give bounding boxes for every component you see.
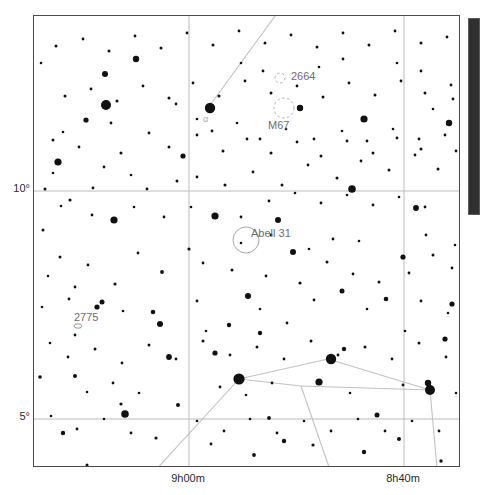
star-marker [384,297,389,302]
star-marker [41,306,44,309]
constellation-line-5 [328,359,430,390]
star-marker [315,378,322,385]
star-marker [244,80,247,83]
star-marker [103,418,106,421]
sky-map-frame[interactable] [33,15,460,467]
dso-label-ngc2664: 2664 [291,70,315,82]
star-marker [400,80,403,83]
star-marker [160,47,163,50]
star-marker [120,152,123,155]
star-marker [346,194,349,197]
scrollbar-thumb[interactable] [468,18,480,215]
star-marker [205,330,208,333]
star-marker [268,200,271,203]
star-marker [175,358,178,361]
axis-label-ra-8h40m: 8h40m [363,472,443,484]
star-marker [348,82,351,85]
star-marker [212,44,215,47]
star-marker [227,323,231,327]
star-marker [211,130,214,133]
star-marker [163,216,166,219]
star-marker [420,148,423,151]
star-marker [451,267,454,270]
constellation-line-3 [301,386,430,390]
star-marker [447,312,450,315]
star-marker [358,240,361,243]
star-marker [418,342,421,345]
star-marker [352,273,355,276]
star-marker [168,97,171,100]
star-marker [121,410,129,418]
star-marker [282,439,286,443]
star-marker [168,146,171,149]
star-marker [270,152,273,155]
star-marker [49,342,52,345]
star-marker [92,187,95,190]
star-marker [59,256,62,259]
star-marker [196,300,199,303]
star-marker [60,205,63,208]
star-marker [414,154,417,157]
star-marker [52,139,55,142]
star-marker [211,212,218,219]
star-marker [223,430,226,433]
star-marker [52,172,55,175]
star-marker [294,192,297,195]
star-marker [134,35,137,38]
axis-label-declination-5: 5° [6,410,30,422]
star-marker [205,103,215,113]
star-marker [368,44,371,47]
star-marker [400,254,405,259]
star-marker [258,331,262,335]
star-marker [94,348,97,351]
star-marker [245,293,251,299]
sky-map-canvas[interactable] [34,16,460,467]
star-marker [404,330,407,333]
star-marker [392,128,395,131]
star-marker [130,432,133,435]
star-marker [82,38,85,41]
star-marker [313,138,316,141]
star-marker [83,117,88,122]
star-marker [408,272,411,275]
star-marker [229,354,232,357]
star-marker [394,30,397,33]
star-marker [318,66,321,69]
star-marker [186,32,189,35]
star-marker [271,382,274,385]
star-marker [236,122,239,125]
star-marker [68,198,71,201]
star-marker [320,155,323,158]
dso-symbol-open-cluster [274,98,294,118]
star-marker [262,70,265,73]
star-marker [245,394,248,397]
constellation-lines [132,16,437,467]
star-marker [362,450,366,454]
star-marker [233,373,244,384]
star-marker [452,98,455,101]
star-marker [332,238,335,241]
constellation-line-1 [132,379,239,467]
star-marker [372,204,375,207]
star-marker [110,216,117,223]
star-marker [47,275,50,278]
star-marker [313,299,316,302]
star-marker [326,261,329,264]
star-marker [121,362,124,365]
star-marker [78,146,81,149]
star-marker [396,62,399,65]
axis-label-ra-9h00m: 9h00m [148,472,228,484]
star-marker [256,346,259,349]
star-marker [446,36,449,39]
star-marker [297,105,303,111]
star-marker [364,346,367,349]
star-marker [311,443,314,446]
star-marker [160,270,164,274]
star-marker [296,85,299,88]
vertical-scrollbar[interactable] [466,0,482,495]
star-marker [76,428,79,431]
star-marker [366,140,369,143]
star-marker [397,437,401,441]
star-marker [374,94,377,97]
star-marker [116,100,119,103]
